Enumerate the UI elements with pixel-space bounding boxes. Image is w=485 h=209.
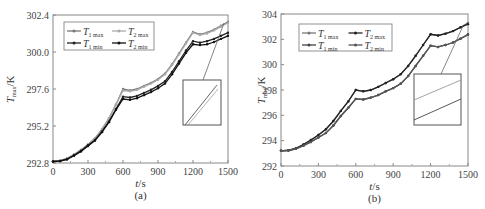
data-marker bbox=[452, 30, 454, 32]
data-marker bbox=[407, 65, 409, 67]
y-axis-label: Tmax/K bbox=[4, 75, 17, 103]
y-tick-label: 294 bbox=[262, 135, 277, 146]
x-axis-label: t/s bbox=[135, 177, 145, 189]
x-axis-label: t/s bbox=[369, 180, 379, 192]
data-marker bbox=[377, 86, 379, 88]
data-marker bbox=[143, 94, 145, 96]
data-marker bbox=[129, 96, 131, 98]
legend: T1 maxT2 maxT1 minT2 min bbox=[64, 22, 154, 50]
data-marker bbox=[59, 160, 61, 162]
data-marker bbox=[220, 25, 222, 27]
x-tick-label: 300 bbox=[311, 169, 326, 180]
data-marker bbox=[414, 65, 416, 67]
data-marker bbox=[325, 132, 327, 134]
data-marker bbox=[444, 32, 446, 34]
data-marker bbox=[178, 62, 180, 64]
x-tick-label: 1500 bbox=[458, 169, 478, 180]
data-marker bbox=[340, 110, 342, 112]
data-marker bbox=[178, 53, 180, 55]
data-marker bbox=[136, 95, 138, 97]
data-marker bbox=[355, 89, 357, 91]
data-marker bbox=[332, 120, 334, 122]
y-tick-label: 297.6 bbox=[27, 84, 50, 95]
data-marker bbox=[407, 75, 409, 77]
data-marker bbox=[150, 82, 152, 84]
data-marker bbox=[317, 136, 319, 138]
data-marker bbox=[310, 141, 312, 143]
data-marker bbox=[302, 145, 304, 147]
data-marker bbox=[192, 32, 194, 34]
data-marker bbox=[213, 41, 215, 43]
y-tick-label: 292 bbox=[262, 161, 277, 172]
data-marker bbox=[227, 32, 229, 34]
legend: T1 maxT2 maxT1 minT2 min bbox=[299, 24, 392, 52]
data-marker bbox=[332, 124, 334, 126]
data-marker bbox=[399, 82, 401, 84]
x-tick-label: 1200 bbox=[183, 166, 203, 177]
data-marker bbox=[199, 44, 201, 46]
y-axis-label: Tmax/K bbox=[255, 76, 268, 104]
data-marker bbox=[185, 42, 187, 44]
data-marker bbox=[385, 90, 387, 92]
y-tick-label: 304 bbox=[262, 9, 277, 20]
data-marker bbox=[157, 87, 159, 89]
data-marker bbox=[129, 99, 131, 101]
y-tick-label: 295.2 bbox=[27, 121, 50, 132]
data-marker bbox=[280, 150, 282, 152]
data-marker bbox=[192, 40, 194, 42]
data-marker bbox=[340, 115, 342, 117]
data-marker bbox=[429, 33, 431, 35]
data-marker bbox=[136, 89, 138, 91]
data-marker bbox=[287, 149, 289, 151]
inset-zoom-box bbox=[414, 74, 461, 125]
data-marker bbox=[213, 29, 215, 31]
data-marker bbox=[227, 22, 229, 24]
data-marker bbox=[459, 26, 461, 28]
data-marker bbox=[206, 32, 208, 34]
data-marker bbox=[459, 38, 461, 40]
data-marker bbox=[220, 35, 222, 37]
x-tick-label: 900 bbox=[151, 166, 166, 177]
data-marker bbox=[317, 134, 319, 136]
data-marker bbox=[122, 98, 124, 100]
data-marker bbox=[422, 44, 424, 46]
data-marker bbox=[66, 158, 68, 160]
data-marker bbox=[143, 92, 145, 94]
data-marker bbox=[136, 97, 138, 99]
panel-b: 030060090012001500292294296298300302304t… bbox=[255, 9, 478, 206]
data-marker bbox=[73, 155, 75, 157]
panel-label: (b) bbox=[368, 192, 381, 205]
data-marker bbox=[150, 89, 152, 91]
data-marker bbox=[467, 34, 469, 36]
data-marker bbox=[122, 89, 124, 91]
data-marker bbox=[392, 78, 394, 80]
x-tick-label: 0 bbox=[279, 169, 284, 180]
data-marker bbox=[171, 64, 173, 66]
data-marker bbox=[185, 52, 187, 54]
data-marker bbox=[295, 148, 297, 150]
data-marker bbox=[355, 98, 357, 100]
data-marker bbox=[362, 90, 364, 92]
data-marker bbox=[164, 82, 166, 84]
data-marker bbox=[347, 100, 349, 102]
x-tick-label: 300 bbox=[81, 166, 96, 177]
data-marker bbox=[370, 96, 372, 98]
data-marker bbox=[171, 73, 173, 75]
data-marker bbox=[437, 34, 439, 36]
y-tick-label: 300.0 bbox=[27, 47, 50, 58]
x-tick-label: 1500 bbox=[218, 166, 238, 177]
data-marker bbox=[227, 35, 229, 37]
data-marker bbox=[362, 98, 364, 100]
data-marker bbox=[452, 41, 454, 43]
data-marker bbox=[80, 150, 82, 152]
x-tick-label: 600 bbox=[116, 166, 131, 177]
x-tick-label: 900 bbox=[386, 169, 401, 180]
data-marker bbox=[422, 55, 424, 57]
panel-label: (a) bbox=[134, 189, 147, 202]
data-marker bbox=[325, 128, 327, 130]
data-marker bbox=[192, 43, 194, 45]
data-marker bbox=[414, 55, 416, 57]
data-marker bbox=[213, 38, 215, 40]
figure: 030060090012001500292.8295.2297.6300.030… bbox=[0, 0, 485, 209]
data-marker bbox=[115, 103, 117, 105]
